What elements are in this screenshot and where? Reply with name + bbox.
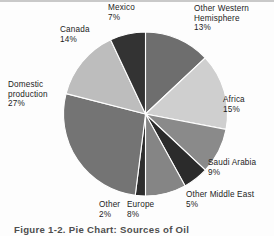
slice-label-canada: Canada 14% [60,25,90,44]
slice-label-domestic-name-line1: Domestic [8,80,43,89]
slice-label-ome-pct: 5% [186,200,254,210]
slice-label-domestic-pct: 27% [8,99,48,109]
slice-label-mexico: Mexico 7% [108,3,135,22]
slice-label-europe-pct: 8% [127,210,154,220]
slice-label-africa: Africa 15% [223,95,245,114]
slice-label-other-western-hemisphere: Other Western Hemisphere 13% [194,4,249,33]
slice-label-other-name: Other [99,200,120,209]
slice-label-domestic-name-line2: production [8,90,48,99]
slice-label-mexico-name: Mexico [108,3,135,12]
slice-label-other-middle-east: Other Middle East 5% [186,190,254,209]
slice-label-mexico-pct: 7% [108,13,135,23]
slice-label-other: Other 2% [99,200,120,219]
slice-label-saudi-pct: 9% [208,168,256,178]
pie-chart-figure: Mexico 7% Other Western Hemisphere 13% C… [0,0,274,236]
slice-label-africa-name: Africa [223,95,245,104]
slice-label-europe: Europe 8% [127,200,154,219]
slice-label-owh-pct: 13% [194,23,249,33]
slice-label-owh-name-line2: Hemisphere [194,14,240,23]
slice-label-saudi-name: Saudi Arabia [208,158,256,167]
slice-label-canada-pct: 14% [60,35,90,45]
slice-label-europe-name: Europe [127,200,154,209]
figure-caption: Figure 1-2. Pie Chart: Sources of Oil [14,224,189,236]
slice-label-domestic-production: Domestic production 27% [8,80,48,109]
slice-label-saudi-arabia: Saudi Arabia 9% [208,158,256,177]
slice-label-africa-pct: 15% [223,105,245,115]
slice-label-ome-name: Other Middle East [186,190,254,199]
slice-label-owh-name-line1: Other Western [194,4,249,13]
slice-label-canada-name: Canada [60,25,90,34]
slice-label-other-pct: 2% [99,210,120,220]
